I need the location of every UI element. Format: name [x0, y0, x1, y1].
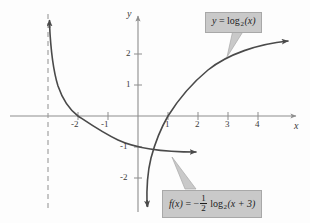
plot-canvas [0, 0, 310, 223]
fx-callout-box: f(x) = −12 log2(x + 3) [162, 190, 262, 218]
log2-callout-lhs: y [212, 15, 216, 26]
fx-callout-fraction: 12 [200, 194, 207, 213]
y-tick-label--1: -1 [120, 141, 128, 151]
y-axis-label: y [127, 8, 131, 19]
fx-callout-minus: − [194, 198, 200, 209]
x-tick-label-4: 4 [255, 119, 260, 129]
fx-callout-fn: log [210, 198, 223, 209]
log2-callout-equals: = [219, 15, 225, 26]
x-tick-label-2: 2 [195, 119, 200, 129]
fx-callout-leader [172, 157, 196, 189]
x-axis-label: x [294, 120, 298, 131]
fx-callout-equals: = [185, 198, 191, 209]
y-tick-label--2: -2 [120, 172, 128, 182]
y-tick-label-1: 1 [126, 79, 131, 89]
log2-callout-arg: (x) [244, 15, 255, 26]
fx-callout-lhs-arg: (x) [172, 198, 183, 209]
x-tick-label--1: -1 [101, 119, 109, 129]
fx-callout-denominator: 2 [200, 204, 207, 213]
log2-callout-leader [227, 30, 244, 57]
log2-callout-box: y = log2(x) [205, 12, 262, 33]
x-tick-label--2: -2 [71, 119, 79, 129]
logarithm-graph-figure: -2 -1 1 2 3 4 2 1 -1 -2 x y y = log2(x) … [0, 0, 310, 223]
curve-f-of-x [50, 24, 197, 152]
log2-callout-fn: log [227, 15, 240, 26]
curve-log2-lower-arrow [147, 200, 148, 207]
y-tick-label-2: 2 [126, 48, 131, 58]
x-tick-label-1: 1 [165, 119, 170, 129]
fx-callout-arg: (x + 3) [227, 198, 255, 209]
x-tick-label-3: 3 [225, 119, 230, 129]
